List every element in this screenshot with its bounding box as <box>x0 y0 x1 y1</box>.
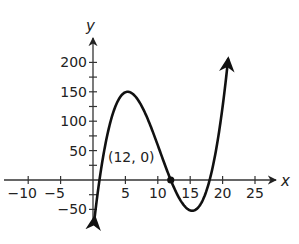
point-label: (12, 0) <box>108 149 155 165</box>
y-tick-label: 50 <box>69 143 87 159</box>
y-axis-label: y <box>85 17 96 35</box>
x-tick-label: −5 <box>44 185 65 201</box>
function-graph: −10−5510152025 −5050100150200 x y (12, 0… <box>0 0 299 244</box>
y-tick-label: −50 <box>57 201 87 217</box>
x-tick-label: 5 <box>121 185 130 201</box>
y-tick-label: 150 <box>60 84 87 100</box>
y-tick-label: 200 <box>60 54 87 70</box>
x-axis-label: x <box>280 172 290 190</box>
y-tick-label: 100 <box>60 113 87 129</box>
point-12-0 <box>167 176 174 183</box>
x-tick-label: 15 <box>181 185 199 201</box>
x-tick-label: 25 <box>246 185 264 201</box>
x-tick-label: 20 <box>214 185 232 201</box>
x-tick-label: 10 <box>149 185 167 201</box>
x-tick-label: −10 <box>7 185 37 201</box>
